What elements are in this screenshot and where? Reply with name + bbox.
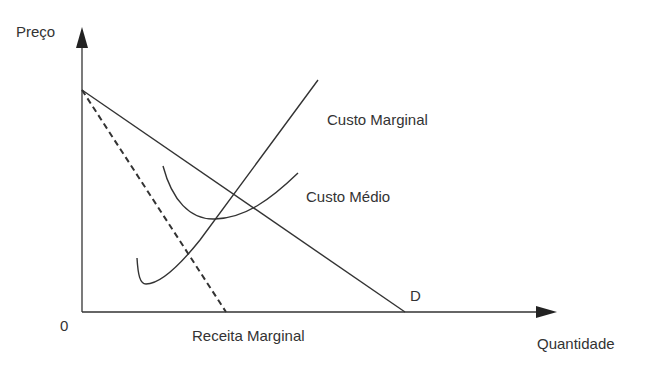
y-axis <box>76 27 88 312</box>
y-axis-label: Preço <box>16 24 55 39</box>
custo-marginal-label: Custo Marginal <box>327 112 428 127</box>
x-axis <box>82 306 557 318</box>
x-axis-label: Quantidade <box>537 336 615 351</box>
receita-marginal-label: Receita Marginal <box>192 328 305 343</box>
marginal-cost-curve <box>137 80 318 284</box>
x-axis-arrow-icon <box>536 306 557 318</box>
origin-label: 0 <box>60 318 68 333</box>
monopoly-diagram <box>0 0 662 368</box>
demand-label: D <box>410 288 421 303</box>
y-axis-arrow-icon <box>76 27 88 48</box>
marginal-revenue-curve <box>82 90 226 312</box>
custo-medio-label: Custo Médio <box>306 189 390 204</box>
